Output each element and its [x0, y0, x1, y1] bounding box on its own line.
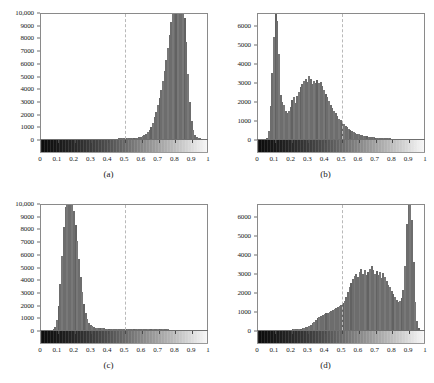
y-axis-tick-label: 5000	[237, 42, 251, 49]
panel-a-caption: (a)	[0, 169, 217, 179]
y-axis-tick-label: 1000	[20, 315, 34, 322]
y-axis-tick-label: 4000	[237, 61, 251, 68]
x-axis-tick-mark	[159, 331, 160, 334]
y-axis-tick-label: 7000	[20, 239, 34, 246]
x-axis-tick-mark	[58, 140, 59, 143]
x-axis-tick-label: 0.6	[353, 346, 362, 354]
x-axis-tick-label: 0.8	[387, 346, 396, 354]
x-axis-tick-mark	[108, 331, 109, 334]
x-axis-tick-label: 1	[423, 155, 427, 163]
y-axis-tick-label: 6000	[20, 60, 34, 67]
y-axis-tick-label: 7000	[20, 48, 34, 55]
x-axis-tick-label: 0.5	[337, 346, 346, 354]
x-axis-tick-mark	[142, 331, 143, 334]
x-axis-tick-label: 0.4	[320, 346, 329, 354]
panel-c-threshold-line	[125, 205, 126, 330]
x-axis-tick-mark	[292, 140, 293, 143]
y-axis-tick-label: 8000	[20, 35, 34, 42]
panel-d-threshold-line	[342, 205, 343, 330]
x-axis-tick-mark	[308, 140, 309, 143]
x-axis-tick-mark	[359, 140, 360, 143]
x-axis-tick-mark	[142, 140, 143, 143]
x-axis-tick-mark	[359, 331, 360, 334]
x-axis-tick-label: 0.1	[269, 155, 278, 163]
x-axis-tick-mark	[409, 140, 410, 143]
x-axis-tick-label: 0.4	[103, 346, 112, 354]
y-axis-tick-label: 2000	[20, 111, 34, 118]
y-axis-tick-label: 1000	[20, 124, 34, 131]
panel-d-y-axis: 0100020003000400050006000	[217, 204, 257, 331]
y-axis-tick-label: 0	[31, 328, 34, 335]
x-axis-tick-label: 0.3	[86, 155, 95, 163]
x-axis-tick-label: 0.6	[136, 155, 145, 163]
panel-c-bars	[41, 205, 207, 330]
y-axis-tick-label: 1000	[237, 309, 251, 316]
x-axis-tick-mark	[325, 140, 326, 143]
panel-d-x-axis: 00.10.20.30.40.50.60.70.80.91	[257, 344, 425, 358]
x-axis-tick-label: 0	[38, 346, 42, 354]
x-axis-tick-mark	[91, 331, 92, 334]
x-axis-tick-label: 0.9	[187, 346, 196, 354]
panel-b-threshold-line	[342, 14, 343, 139]
x-axis-tick-label: 0.7	[370, 346, 379, 354]
x-axis-tick-mark	[325, 331, 326, 334]
y-axis-tick-label: 4000	[20, 277, 34, 284]
panel-b: 0100020003000400050006000 00.10.20.30.40…	[217, 0, 434, 191]
x-axis-tick-mark	[376, 331, 377, 334]
panel-a-y-axis: 010002000300040005000600070008000900010,…	[0, 13, 40, 140]
panel-b-bars	[258, 14, 424, 139]
y-axis-tick-label: 2000	[20, 302, 34, 309]
x-axis-tick-label: 0.9	[187, 155, 196, 163]
panel-c: 010002000300040005000600070008000900010,…	[0, 191, 217, 382]
x-axis-tick-label: 0.3	[303, 346, 312, 354]
x-axis-tick-label: 0.2	[69, 346, 78, 354]
y-axis-tick-label: 5000	[237, 233, 251, 240]
y-axis-tick-label: 2000	[237, 99, 251, 106]
y-axis-tick-label: 10,000	[15, 201, 34, 208]
panel-d-bars	[258, 205, 424, 330]
panel-d: 0100020003000400050006000 00.10.20.30.40…	[217, 191, 434, 382]
x-axis-tick-label: 0	[38, 155, 42, 163]
y-axis-tick-label: 5000	[20, 73, 34, 80]
x-axis-tick-mark	[75, 331, 76, 334]
panel-a: 010002000300040005000600070008000900010,…	[0, 0, 217, 191]
x-axis-tick-label: 0.1	[52, 346, 61, 354]
x-axis-tick-label: 0.4	[320, 155, 329, 163]
y-axis-tick-label: 2000	[237, 290, 251, 297]
x-axis-tick-label: 0.7	[370, 155, 379, 163]
x-axis-tick-mark	[125, 140, 126, 143]
x-axis-tick-mark	[108, 140, 109, 143]
panel-b-y-axis: 0100020003000400050006000	[217, 13, 257, 140]
y-axis-tick-label: 4000	[20, 86, 34, 93]
x-axis-tick-mark	[342, 331, 343, 334]
panel-b-plot-area	[257, 13, 425, 140]
panel-a-bars	[41, 14, 207, 139]
panel-d-colorbar	[257, 331, 425, 343]
x-axis-tick-label: 1	[423, 346, 427, 354]
y-axis-tick-label: 10,000	[15, 10, 34, 17]
x-axis-tick-label: 0.6	[136, 346, 145, 354]
x-axis-tick-mark	[175, 331, 176, 334]
x-axis-tick-mark	[392, 140, 393, 143]
x-axis-tick-mark	[275, 331, 276, 334]
x-axis-tick-label: 0	[255, 155, 259, 163]
y-axis-tick-label: 9000	[20, 213, 34, 220]
x-axis-tick-label: 0.3	[303, 155, 312, 163]
x-axis-tick-mark	[159, 140, 160, 143]
y-axis-tick-label: 6000	[237, 214, 251, 221]
x-axis-tick-label: 0.4	[103, 155, 112, 163]
panel-b-caption: (b)	[217, 169, 434, 179]
x-axis-tick-label: 0.3	[86, 346, 95, 354]
x-axis-tick-label: 0.8	[170, 346, 179, 354]
x-axis-tick-label: 0.1	[269, 346, 278, 354]
panel-d-caption: (d)	[217, 360, 434, 370]
y-axis-tick-label: 3000	[237, 271, 251, 278]
y-axis-tick-label: 1000	[237, 118, 251, 125]
x-axis-tick-label: 0.8	[170, 155, 179, 163]
x-axis-tick-label: 0.7	[153, 155, 162, 163]
x-axis-tick-mark	[58, 331, 59, 334]
y-axis-tick-label: 8000	[20, 226, 34, 233]
x-axis-tick-label: 0.2	[286, 346, 295, 354]
panel-a-threshold-line	[125, 14, 126, 139]
x-axis-tick-label: 0.5	[337, 155, 346, 163]
